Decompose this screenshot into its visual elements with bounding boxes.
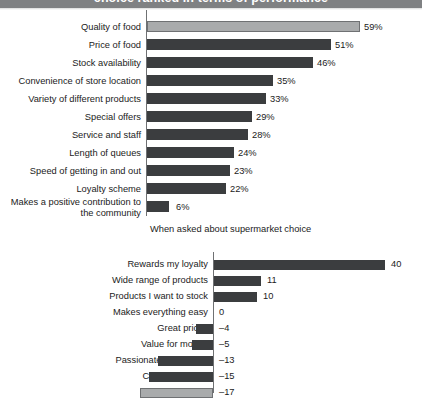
category-label: Length of queues bbox=[0, 144, 141, 162]
category-label: Loyalty scheme bbox=[0, 180, 141, 198]
category-label: Price of food bbox=[0, 36, 141, 54]
category-label: Rewards my loyalty bbox=[0, 257, 208, 272]
bar bbox=[192, 340, 213, 350]
bar bbox=[196, 324, 213, 334]
chart-row: Company I trust –15 bbox=[0, 369, 422, 384]
bar bbox=[147, 111, 252, 122]
value-label: –5 bbox=[219, 337, 229, 352]
bar bbox=[147, 201, 169, 212]
bar bbox=[147, 93, 266, 104]
bar bbox=[149, 372, 213, 382]
category-label: Makes a positive contribution to the com… bbox=[0, 197, 141, 219]
bar bbox=[140, 388, 213, 398]
bar bbox=[147, 147, 234, 158]
bar bbox=[158, 356, 213, 366]
bar bbox=[214, 276, 261, 286]
bar bbox=[147, 183, 226, 194]
chart-title-band: choice ranked in terms of performance bbox=[0, 0, 422, 8]
value-label: 22% bbox=[230, 180, 249, 198]
brand-attribute-bar-chart: Rewards my loyalty 40 Wide range of prod… bbox=[0, 252, 422, 397]
bar bbox=[214, 260, 385, 270]
chart-row: Passionate about food –13 bbox=[0, 353, 422, 368]
chart-row: Products I want to stock 10 bbox=[0, 289, 422, 304]
category-label: Variety of different products bbox=[0, 90, 141, 108]
bar bbox=[214, 292, 257, 302]
page-title: choice ranked in terms of performance bbox=[0, 0, 422, 5]
value-label: 40 bbox=[391, 257, 401, 272]
category-label: Value for money bbox=[0, 337, 208, 352]
value-label: –4 bbox=[219, 321, 229, 336]
value-label: –13 bbox=[219, 353, 235, 368]
chart-row: Quality of food 59% bbox=[0, 18, 422, 36]
chart-row: Makes everything easy 0 bbox=[0, 305, 422, 320]
value-label: 51% bbox=[335, 36, 354, 54]
chart-row: Length of queues 24% bbox=[0, 144, 422, 162]
value-label: 28% bbox=[252, 126, 271, 144]
value-label: 6% bbox=[176, 198, 189, 216]
value-label: –17 bbox=[219, 385, 235, 400]
bar bbox=[147, 57, 313, 68]
category-label: Speed of getting in and out bbox=[0, 162, 141, 180]
section-caption: When asked about supermarket choice bbox=[150, 224, 420, 234]
value-label: 24% bbox=[238, 144, 257, 162]
value-label: 29% bbox=[256, 108, 275, 126]
value-label: 23% bbox=[234, 162, 253, 180]
category-label: Products I want to stock bbox=[0, 289, 208, 304]
category-label: Quality of food bbox=[0, 18, 141, 36]
chart-row: Value for money –5 bbox=[0, 337, 422, 352]
chart-row: Speed of getting in and out 23% bbox=[0, 162, 422, 180]
performance-bar-chart: Quality of food 59% Price of food 51% St… bbox=[0, 10, 422, 222]
bar bbox=[147, 129, 248, 140]
bar bbox=[147, 165, 230, 176]
chart-row: Rewards my loyalty 40 bbox=[0, 257, 422, 272]
category-label: Stock availability bbox=[0, 54, 141, 72]
value-label: 35% bbox=[277, 72, 296, 90]
bar bbox=[147, 75, 273, 86]
bar bbox=[147, 21, 360, 32]
value-label: 11 bbox=[267, 273, 277, 288]
chart-row: Wide range of products 11 bbox=[0, 273, 422, 288]
category-label: Special offers bbox=[0, 108, 141, 126]
value-label: 46% bbox=[317, 54, 336, 72]
chart-row: Price of food 51% bbox=[0, 36, 422, 54]
section-divider bbox=[0, 247, 422, 248]
category-label: Wide range of products bbox=[0, 273, 208, 288]
value-label: 10 bbox=[263, 289, 273, 304]
value-label: 33% bbox=[270, 90, 289, 108]
bar bbox=[147, 39, 331, 50]
chart-row: Special offers 29% bbox=[0, 108, 422, 126]
chart-row: Stock availability 46% bbox=[0, 54, 422, 72]
chart-row: Great quality –17 bbox=[0, 385, 422, 400]
category-label: Great prices bbox=[0, 321, 208, 336]
chart-row: Convenience of store location 35% bbox=[0, 72, 422, 90]
chart-row: Great prices –4 bbox=[0, 321, 422, 336]
category-label: Makes everything easy bbox=[0, 305, 208, 320]
chart-row: Service and staff 28% bbox=[0, 126, 422, 144]
value-label: 59% bbox=[364, 18, 383, 36]
value-label: 0 bbox=[219, 305, 224, 320]
chart-row: Variety of different products 33% bbox=[0, 90, 422, 108]
chart-row: Makes a positive contribution to the com… bbox=[0, 198, 422, 216]
chart-row: Loyalty scheme 22% bbox=[0, 180, 422, 198]
category-label: Convenience of store location bbox=[0, 72, 141, 90]
value-label: –15 bbox=[219, 369, 235, 384]
category-label: Service and staff bbox=[0, 126, 141, 144]
